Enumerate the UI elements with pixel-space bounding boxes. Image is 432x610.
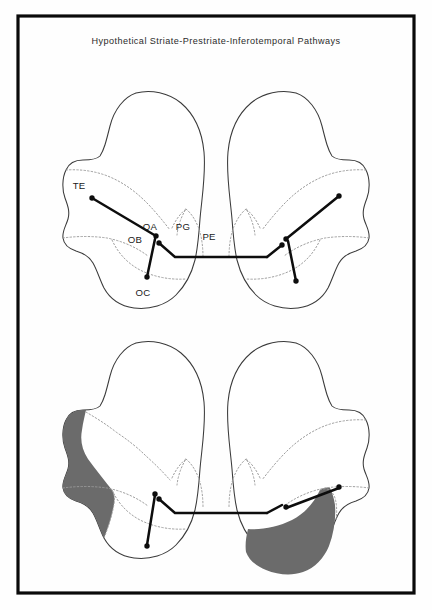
label-pg: PG bbox=[176, 221, 190, 232]
label-oc: OC bbox=[136, 287, 151, 298]
figure-canvas: Hypothetical Striate-Prestriate-Inferote… bbox=[0, 0, 432, 610]
dot-left-oc bbox=[144, 274, 149, 279]
label-oa: OA bbox=[143, 221, 158, 232]
label-te: TE bbox=[73, 180, 86, 191]
figure-background bbox=[0, 0, 432, 610]
dot-right-oc bbox=[293, 278, 298, 283]
figure-root: Hypothetical Striate-Prestriate-Inferote… bbox=[0, 0, 432, 610]
dot-right-oa-lesioned bbox=[283, 504, 288, 509]
label-pe: PE bbox=[202, 231, 215, 242]
figure-title: Hypothetical Striate-Prestriate-Inferote… bbox=[91, 36, 340, 46]
dot-right-oa-lower bbox=[279, 242, 284, 247]
dot-left-oa-upper-lesioned bbox=[152, 491, 157, 496]
dot-left-oa-lower-lesioned bbox=[156, 496, 161, 501]
dot-left-te bbox=[89, 195, 94, 200]
dot-left-oc-lesioned bbox=[144, 543, 149, 548]
dot-right-oa-upper bbox=[283, 236, 288, 241]
dot-right-te bbox=[336, 193, 341, 198]
label-ob: OB bbox=[128, 234, 142, 245]
dot-right-te-lesioned bbox=[336, 484, 341, 489]
dot-left-oa-lower bbox=[156, 240, 161, 245]
dot-left-oa-upper bbox=[153, 233, 158, 238]
